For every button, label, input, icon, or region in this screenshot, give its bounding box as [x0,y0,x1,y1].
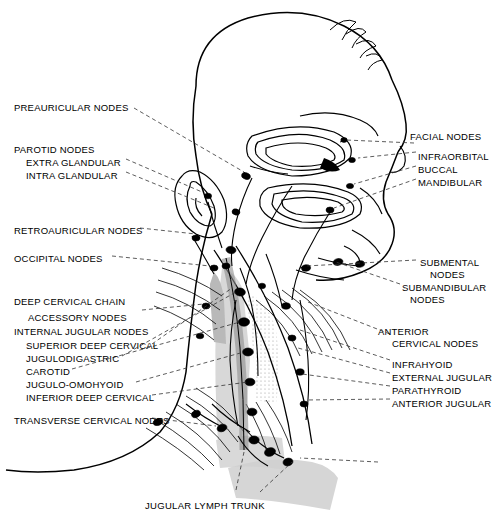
node [332,258,343,267]
label-parotid-nodes: PAROTID NODES [14,145,95,155]
leader-preauricular [134,108,244,172]
node [301,264,311,272]
node [196,333,204,339]
node [249,436,259,444]
node [355,260,365,268]
label-accessory-nodes: ACCESSORY NODES [28,313,127,323]
node [346,183,353,188]
label-submandibular-nodes: SUBMANDIBULAR [402,283,486,293]
node [243,348,254,356]
node [326,207,334,213]
lymphatic-diagram-figure: PREAURICULAR NODES PAROTID NODES EXTRA G… [0,0,498,523]
label-submental-nodes-line2: NODES [430,270,465,280]
label-jugulo-omohyoid: JUGULO-OMOHYOID [26,380,123,390]
leader-infrahyoid [300,330,390,360]
label-external-jugular: EXTERNAL JUGULAR [392,373,492,383]
node [288,335,296,341]
node [222,263,230,269]
leader-trunk-right [300,458,378,462]
leader-anterior-jugular [306,399,390,400]
node [247,408,257,416]
leader-retroauricular [140,228,196,234]
label-anterior-cervical-nodes-line2: CERVICAL NODES [392,339,478,349]
node [300,401,308,407]
label-infrahyoid: INFRAHYOID [392,360,453,370]
leader-submandibular [336,262,400,284]
leader-intra-glandular [126,172,214,208]
label-superior-deep-cervical: SUPERIOR DEEP CERVICAL [26,341,158,351]
head-outline [6,13,406,472]
label-submandibular-nodes-line2: NODES [410,295,445,305]
label-parathyroid: PARATHYROID [392,386,461,396]
label-retroauricular-nodes: RETROAURICULAR NODES [14,226,143,236]
label-deep-cervical-chain: DEEP CERVICAL CHAIN [14,297,125,307]
label-occipital-nodes: OCCIPITAL NODES [14,254,103,264]
label-carotid: CAROTID [26,367,70,377]
node [258,283,265,289]
label-extra-glandular: EXTRA GLANDULAR [26,158,121,168]
label-anterior-jugular: ANTERIOR JUGULAR [392,399,491,409]
label-inferior-deep-cervical: INFERIOR DEEP CERVICAL [26,393,154,403]
label-facial-nodes: FACIAL NODES [410,132,481,142]
label-internal-jugular-nodes: INTERNAL JUGULAR NODES [14,327,148,337]
label-transverse-cervical-nodes: TRANSVERSE CERVICAL NODES [14,416,169,426]
node [349,157,356,162]
figure-caption: JUGULAR LYMPH TRUNK [145,500,265,511]
leader-extra-glandular [126,159,202,192]
label-jugulodigastric: JUGULODIGASTRIC [26,354,119,364]
node [190,409,201,419]
label-preauricular-nodes: PREAURICULAR NODES [14,103,128,113]
node [241,171,252,180]
label-anterior-cervical-nodes: ANTERIOR [378,327,429,337]
node [192,235,200,241]
leader-infraorbital [358,152,416,158]
label-submental-nodes: SUBMENTAL [420,258,479,268]
leader-external-jugular [298,348,390,373]
leader-buccal [354,166,416,184]
leader-mandibular [334,179,416,208]
label-intra-glandular: INTRA GLANDULAR [26,171,118,181]
label-infraorbital: INFRAORBITAL [418,152,489,162]
node [238,318,249,326]
node [282,303,291,309]
node [245,378,255,386]
leader-occipital [112,256,210,266]
leader-parathyroid [302,374,390,386]
node [225,246,236,255]
node [210,265,218,271]
node [204,193,211,199]
label-buccal: BUCCAL [418,165,458,175]
label-mandibular: MANDIBULAR [418,178,482,188]
